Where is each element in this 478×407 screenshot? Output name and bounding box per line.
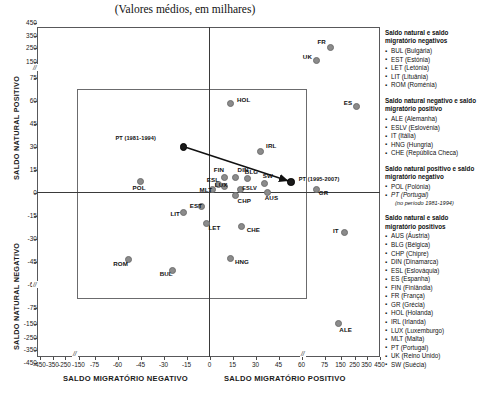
scatter-point-label: HOL (237, 96, 250, 103)
legend-item[interactable]: CHP (Chipre) (385, 250, 478, 259)
legend-item[interactable]: GR (Grécia) (385, 301, 478, 310)
legend-heading: Saldo natural positivo e saldo migratóri… (385, 165, 478, 182)
x-tick-mark (380, 357, 381, 360)
y-tick-mark (34, 350, 37, 351)
scatter-point[interactable] (287, 178, 295, 186)
legend-item[interactable]: IT (Itália) (385, 132, 478, 141)
scatter-point-label: EST (190, 202, 202, 209)
scatter-point[interactable] (180, 209, 187, 216)
y-tick-mark (34, 324, 37, 325)
y-axis-break-top: // (32, 64, 38, 71)
legend-item[interactable]: EST (Estónia) (385, 56, 478, 65)
x-tick-mark (355, 357, 356, 360)
scatter-point-label: FR (317, 38, 325, 45)
x-tick-mark (118, 357, 119, 360)
legend-item[interactable]: HNG (Hungria) (385, 141, 478, 150)
y-tick-mark (34, 170, 37, 171)
scatter-point-label: IRL (266, 142, 276, 149)
scatter-point[interactable] (238, 223, 245, 230)
scatter-point[interactable] (221, 174, 228, 181)
x-tick-mark (164, 357, 165, 360)
legend-item[interactable]: PT (Portugal) (385, 191, 478, 200)
scatter-point-label: DIN (238, 166, 249, 173)
y-tick-mark (34, 124, 37, 125)
scatter-point[interactable] (180, 143, 188, 151)
scatter-point-label: AUS (265, 194, 278, 201)
legend-item[interactable]: UK (Reino Unido) (385, 352, 478, 361)
x-tick-mark (53, 357, 54, 360)
scatter-point-label: ALE (339, 326, 352, 333)
scatter-point-label: FIN (214, 166, 224, 173)
x-tick-mark (95, 357, 96, 360)
x-tick-mark (210, 357, 211, 360)
scatter-point[interactable] (313, 57, 320, 64)
legend-heading: Saldo natural e saldo migratório negativ… (385, 29, 478, 46)
legend-item[interactable]: ESLV (Eslovénia) (385, 124, 478, 133)
legend-heading: Saldo natural e saldo migratório positiv… (385, 214, 478, 231)
scatter-point[interactable] (341, 229, 348, 236)
legend-item[interactable]: ESL (Eslováquia) (385, 267, 478, 276)
y-tick-mark (34, 239, 37, 240)
legend: Saldo natural e saldo migratório negativ… (385, 29, 478, 376)
scatter-point-label: CHP (238, 197, 251, 204)
x-tick-mark (302, 357, 303, 360)
scatter-point-label: CHE (247, 226, 260, 233)
y-tick-label: 450 (3, 19, 37, 26)
scatter-point-label: LIT (170, 210, 180, 217)
x-tick-mark (79, 357, 80, 360)
legend-item[interactable]: AUS (Áustria) (385, 232, 478, 241)
legend-item[interactable]: FR (França) (385, 292, 478, 301)
y-tick-mark (34, 193, 37, 194)
scatter-point-label: HNG (235, 258, 249, 265)
y-tick-mark (34, 308, 37, 309)
y-tick-mark (34, 23, 37, 24)
scatter-point-label: UK (303, 53, 312, 60)
legend-item[interactable]: BUL (Bulgária) (385, 47, 478, 56)
x-axis-break-right: // (300, 350, 306, 357)
scatter-point[interactable] (257, 148, 264, 155)
scatter-point-label: BUL (160, 270, 173, 277)
legend-item[interactable]: HOL (Holanda) (385, 309, 478, 318)
scatter-point-label: ESLV (242, 185, 257, 191)
y-tick-mark (34, 262, 37, 263)
legend-item[interactable]: CHE (República Checa) (385, 149, 478, 158)
scatter-point-label: SW (263, 172, 273, 179)
x-tick-mark (187, 357, 188, 360)
legend-item[interactable]: POL (Polónia) (385, 183, 478, 192)
scatter-point-label: PT (1981-1994) (115, 135, 156, 141)
legend-item[interactable]: PT (Portugal) (385, 344, 478, 353)
legend-item[interactable]: ES (Espanha) (385, 275, 478, 284)
x-tick-mark (341, 357, 342, 360)
y-tick-mark (34, 216, 37, 217)
legend-item[interactable]: IRL (Irlanda) (385, 318, 478, 327)
scatter-point-label: ROM (113, 260, 128, 267)
x-axis-label-negative: SALDO MIGRATÓRIO NEGATIVO (63, 374, 188, 383)
legend-note: (no período 1981-1994) (385, 200, 478, 207)
y-tick-mark (34, 78, 37, 79)
legend-item[interactable]: ALE (Alemanha) (385, 115, 478, 124)
legend-item[interactable]: ROM (Roménia) (385, 81, 478, 90)
legend-item[interactable]: DIN (Dinamarca) (385, 258, 478, 267)
x-tick-mark (256, 357, 257, 360)
y-tick-label: -15 (3, 212, 37, 219)
legend-item[interactable]: FIN (Finlândia) (385, 284, 478, 293)
legend-item[interactable]: BLG (Bélgica) (385, 241, 478, 250)
legend-block: Saldo natural positivo e saldo migratóri… (385, 165, 478, 207)
scatter-point-label: PT (1995-2007) (299, 176, 340, 182)
legend-item[interactable]: LET (Letónia) (385, 64, 478, 73)
legend-item[interactable]: LIT (Lituânia) (385, 73, 478, 82)
scatter-point[interactable] (261, 180, 268, 187)
x-tick-mark (65, 357, 66, 360)
legend-item[interactable]: SW (Suécia) (385, 361, 478, 370)
y-axis-label-negative: SALDO NATURAL NEGATIVO (12, 243, 21, 350)
scatter-point-label: IT (333, 227, 339, 234)
y-axis-break-bottom: // (32, 281, 38, 288)
y-tick-mark (34, 147, 37, 148)
legend-item[interactable]: LUX (Luxemburgo) (385, 327, 478, 336)
scatter-point-label: MLT (200, 186, 213, 193)
scatter-point[interactable] (232, 174, 239, 181)
y-tick-mark (34, 36, 37, 37)
legend-block: Saldo natural e saldo migratório negativ… (385, 29, 478, 90)
legend-block: Saldo natural negativo e saldo migratóri… (385, 97, 478, 158)
legend-item[interactable]: MLT (Malta) (385, 335, 478, 344)
